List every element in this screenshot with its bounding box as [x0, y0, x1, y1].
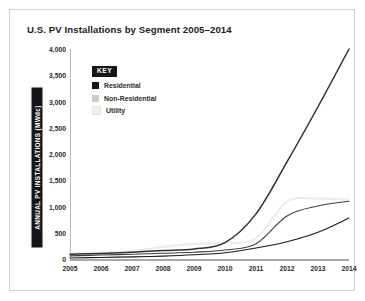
legend-item-label: Residential	[104, 82, 141, 89]
x-tick-label: 2008	[155, 265, 170, 272]
x-tick-label: 2006	[93, 265, 108, 272]
y-tick-label: 4,000	[49, 46, 66, 53]
legend-item[interactable]: Residential	[92, 82, 156, 90]
legend-rows: ResidentialNon-ResidentialUtility	[92, 82, 156, 115]
x-tick-label: 2012	[279, 265, 294, 272]
x-tick-label: 2007	[124, 265, 139, 272]
y-tick-label: 1,500	[49, 177, 66, 184]
legend-item-label: Non-Residential	[104, 95, 156, 102]
legend-title: KEY	[92, 66, 117, 78]
x-tick-label: 2014	[341, 265, 356, 272]
x-tick-label: 2013	[310, 265, 325, 272]
y-axis-label-chip: ANNUAL PV INSTALLATIONS (MWdc)	[32, 88, 43, 248]
y-axis-label: ANNUAL PV INSTALLATIONS (MWdc)	[34, 105, 41, 229]
y-tick-label: 1,000	[49, 203, 66, 210]
x-tick-label: 2005	[62, 265, 77, 272]
x-tick-label: 2011	[249, 265, 264, 272]
legend-swatch-icon	[92, 95, 99, 102]
legend-item[interactable]: Utility	[92, 107, 156, 115]
legend-swatch-icon	[92, 106, 101, 115]
chart-legend: KEY ResidentialNon-ResidentialUtility	[92, 59, 156, 115]
legend-item-label: Utility	[106, 107, 125, 114]
figure-frame: U.S. PV Installations by Segment 2005–20…	[9, 9, 355, 291]
y-tick-label: 2,500	[49, 124, 66, 131]
legend-item[interactable]: Non-Residential	[92, 94, 156, 102]
legend-swatch-icon	[92, 82, 99, 89]
y-tick-label: 0	[62, 256, 66, 263]
x-tick-label: 2009	[186, 265, 201, 272]
chart-title: U.S. PV Installations by Segment 2005–20…	[27, 24, 232, 35]
series-line-utility	[70, 198, 349, 253]
y-tick-label: 500	[55, 229, 66, 236]
y-tick-label: 3,000	[49, 98, 66, 105]
y-tick-label: 3,500	[49, 72, 66, 79]
y-tick-label: 2,000	[49, 151, 66, 158]
x-tick-label: 2010	[217, 265, 232, 272]
